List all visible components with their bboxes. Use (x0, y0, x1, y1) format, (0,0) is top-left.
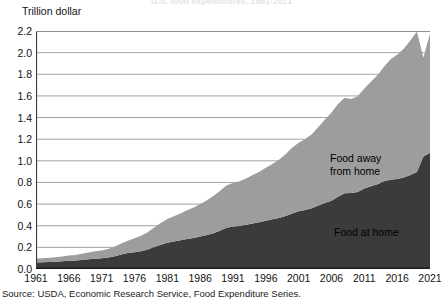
x-tick-label: 1991 (217, 273, 249, 284)
x-tick-label: 2011 (348, 273, 380, 284)
y-tick-label: 1.8 (0, 69, 32, 80)
y-tick-label: 1.4 (0, 113, 32, 124)
x-tick-label: 1976 (119, 273, 151, 284)
y-tick-label: 1.6 (0, 91, 32, 102)
x-tick-label: 1996 (250, 273, 282, 284)
series-label-away-line1: Food away (330, 152, 381, 165)
chart-figure: U.S. food expenditures, 1961-2021 Trilli… (0, 0, 443, 301)
x-tick-label: 1986 (184, 273, 216, 284)
series-label-food-away-from-home: Food away from home (330, 152, 381, 177)
y-axis-label: Trillion dollar (22, 5, 81, 17)
x-tick-label: 1966 (53, 273, 85, 284)
series-label-away-line2: from home (330, 165, 381, 178)
x-tick-label: 2001 (283, 273, 315, 284)
x-tick-label: 1971 (86, 273, 118, 284)
x-tick-label: 2006 (316, 273, 348, 284)
y-tick-label: 0.4 (0, 221, 32, 232)
y-tick-label: 1.0 (0, 156, 32, 167)
source-note: Source: USDA, Economic Research Service,… (2, 288, 301, 299)
y-tick-label: 0.6 (0, 199, 32, 210)
y-tick-label: 2.0 (0, 48, 32, 59)
x-tick-label: 1961 (20, 273, 52, 284)
x-tick-label: 2021 (414, 273, 443, 284)
x-tick-label: 1981 (151, 273, 183, 284)
x-tick-label: 2016 (381, 273, 413, 284)
y-tick-label: 0.8 (0, 177, 32, 188)
y-tick-label: 1.2 (0, 134, 32, 145)
y-tick-label: 2.2 (0, 26, 32, 37)
y-tick-label: 0.2 (0, 242, 32, 253)
series-label-food-at-home: Food at home (334, 226, 399, 239)
